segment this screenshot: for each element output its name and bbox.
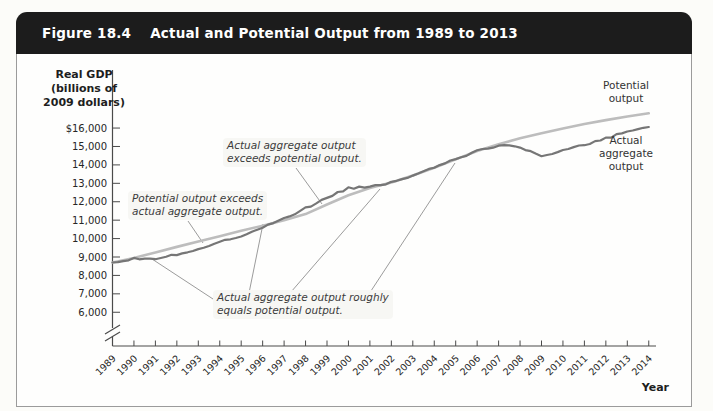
x-tick-label: 2004 — [415, 353, 440, 378]
x-tick-label: 2008 — [501, 353, 526, 378]
x-tick-label: 1989 — [93, 353, 118, 378]
annotation-roughly-equals: Actual aggregate output roughly equals p… — [213, 290, 393, 319]
y-tick-label: $16,000 — [66, 123, 107, 134]
x-tick-label: 2011 — [565, 353, 590, 378]
potential-output-label: Potential output — [597, 79, 655, 105]
y-tick-label: 10,000 — [72, 233, 107, 244]
x-tick-label: 2001 — [350, 353, 375, 378]
x-tick-label: 2007 — [479, 353, 504, 378]
x-tick-label: 1996 — [243, 353, 268, 378]
annotation-pointer-line — [296, 168, 322, 204]
x-tick-label: 1991 — [136, 353, 161, 378]
x-tick-label: 1990 — [114, 353, 139, 378]
x-tick-label: 1997 — [265, 353, 290, 378]
y-tick-label: 8,000 — [78, 270, 107, 281]
y-tick-label: 13,000 — [72, 178, 107, 189]
annotation-pointer-line — [249, 224, 263, 293]
y-tick-label: 12,000 — [72, 196, 107, 207]
x-tick-label: 2005 — [436, 353, 461, 378]
x-tick-label: 2006 — [458, 353, 483, 378]
x-tick-label: 1998 — [286, 353, 311, 378]
x-tick-label: 2012 — [586, 353, 611, 378]
x-tick-label: 1994 — [200, 353, 225, 378]
actual-output-label: Actual aggregate output — [595, 134, 657, 172]
x-tick-label: 2014 — [629, 353, 654, 378]
x-tick-label: 2009 — [522, 353, 547, 378]
y-axis-title: Real GDP (billions of 2009 dollars) — [28, 68, 140, 110]
y-tick-label: 14,000 — [72, 159, 107, 170]
y-tick-label: 6,000 — [78, 307, 107, 318]
annotation-potential-exceeds: Potential output exceeds actual aggregat… — [128, 191, 267, 220]
chart-canvas: $16,00015,00014,00013,00012,00011,00010,… — [0, 0, 713, 411]
x-tick-label: 2002 — [372, 353, 397, 378]
x-tick-label: 2010 — [543, 353, 568, 378]
y-tick-label: 15,000 — [72, 141, 107, 152]
annotation-actual-exceeds: Actual aggregate output exceeds potentia… — [223, 138, 366, 167]
x-tick-label: 1995 — [222, 353, 247, 378]
y-tick-label: 9,000 — [78, 252, 107, 263]
x-tick-label: 2013 — [608, 353, 633, 378]
x-axis-title: Year — [609, 381, 669, 394]
y-tick-label: 11,000 — [72, 215, 107, 226]
x-tick-label: 1993 — [179, 353, 204, 378]
x-tick-label: 2000 — [329, 353, 354, 378]
annotation-pointer-line — [367, 163, 455, 297]
x-tick-label: 2003 — [393, 353, 418, 378]
annotation-pointer-line — [291, 189, 380, 292]
annotation-pointer-line — [152, 259, 213, 299]
x-tick-label: 1992 — [157, 353, 182, 378]
x-tick-label: 1999 — [308, 353, 333, 378]
y-tick-label: 7,000 — [78, 288, 107, 299]
potential-output-line — [113, 113, 649, 262]
